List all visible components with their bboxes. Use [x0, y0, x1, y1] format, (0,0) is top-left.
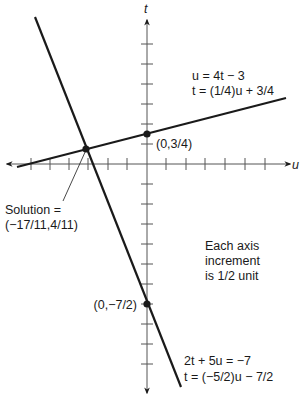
line-2	[35, 17, 181, 387]
note-line-2: increment	[205, 254, 260, 268]
u-axis-label: u	[292, 158, 299, 172]
graph-canvas: t u (0,3/4) (0,−7/2) u = 4t − 3 t = (1/4…	[0, 0, 302, 397]
line-1	[17, 98, 286, 167]
solution-value: (−17/11,4/11)	[5, 218, 78, 232]
solution-point	[82, 145, 89, 152]
line-1-equation-2: t = (1/4)u + 3/4	[192, 84, 274, 98]
note-line-1: Each axis	[205, 239, 259, 253]
intercept-label-2: (0,−7/2)	[94, 298, 137, 312]
note-line-3: is 1/2 unit	[205, 269, 259, 283]
t-axis-label: t	[144, 2, 148, 16]
solution-label: Solution =	[5, 203, 61, 217]
line-2-equation-1: 2t + 5u = −7	[184, 354, 251, 368]
line-2-equation-2: t = (−5/2)u − 7/2	[184, 370, 273, 384]
intercept-point-1	[143, 130, 150, 137]
intercept-label-1: (0,3/4)	[156, 137, 192, 151]
intercept-point-2	[143, 300, 150, 307]
line-1-equation-1: u = 4t − 3	[192, 69, 245, 83]
solution-pointer	[63, 150, 86, 201]
